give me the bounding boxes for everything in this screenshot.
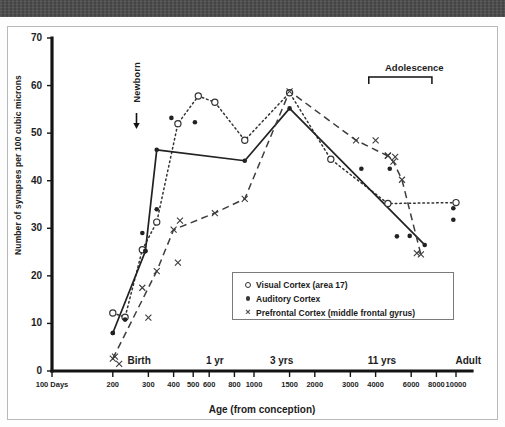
y-tick-label: 10 [16,317,42,328]
y-tick-label: 0 [16,365,42,376]
data-point-open-circle [154,219,160,225]
data-point-open-circle [385,200,391,206]
y-tick-label: 60 [16,80,42,91]
scatter-point-cross [175,260,181,266]
legend-item-auditory: Auditory Cortex [240,292,446,305]
data-point-open-circle [195,93,201,99]
scatter-point-filled-circle [154,207,159,212]
y-tick-label: 40 [16,175,42,186]
data-point-cross [353,137,359,143]
x-stage-label: Birth [104,355,174,366]
data-point-open-circle [175,121,181,127]
scatter-point-filled-circle [169,116,174,121]
adolescence-bracket [369,77,432,84]
open-circle-icon [240,282,256,288]
y-tick-label: 20 [16,270,42,281]
chart-legend: Visual Cortex (area 17) Auditory Cortex … [232,272,454,320]
data-point-open-circle [212,99,218,105]
legend-label-prefrontal: Prefrontal Cortex (middle frontal gyrus) [256,308,415,318]
scatter-point-filled-circle [395,234,400,239]
y-tick-label: 30 [16,222,42,233]
scatter-point-filled-circle [140,231,145,236]
cross-icon: × [240,308,256,317]
data-point-open-circle [453,199,459,205]
x-stage-label: Adult [433,355,503,366]
y-tick-label: 70 [16,32,42,43]
x-stage-label: 3 yrs [247,355,317,366]
x-stage-label: 11 yrs [347,355,417,366]
newborn-annotation: Newborn [132,62,142,103]
legend-item-prefrontal: × Prefrontal Cortex (middle frontal gyru… [240,306,446,319]
data-point-filled-circle [287,106,292,111]
data-point-filled-circle [422,243,427,248]
data-point-cross [242,196,248,202]
scatter-point-cross [145,315,151,321]
newborn-arrow-head [133,123,139,129]
scatter-point-cross [392,154,398,160]
scatter-point-filled-circle [407,234,412,239]
data-point-cross [171,227,177,233]
legend-label-visual: Visual Cortex (area 17) [256,280,348,290]
data-point-filled-circle [143,249,148,254]
data-point-filled-circle [242,158,247,163]
scatter-point-filled-circle [451,217,456,222]
data-point-cross [212,210,218,216]
x-stage-label: 1 yr [180,355,250,366]
data-point-cross [385,153,391,159]
scatter-point-filled-circle [123,317,128,322]
scatter-point-cross [177,218,183,224]
scatter-point-filled-circle [359,167,364,172]
adolescence-annotation: Adolescence [385,62,444,73]
scatter-point-cross [139,285,145,291]
scatter-point-cross [373,137,379,143]
filled-circle-icon [240,296,256,301]
legend-label-auditory: Auditory Cortex [256,294,320,304]
y-axis-label: Number of synapses per 100 cubic microns [13,65,23,265]
data-point-cross [154,268,160,274]
data-point-filled-circle [154,147,159,152]
figure-root: Number of synapses per 100 cubic microns… [0,0,505,427]
data-point-open-circle [242,137,248,143]
legend-item-visual: Visual Cortex (area 17) [240,278,446,291]
x-tick-label: 10000 [434,380,478,389]
data-point-cross [390,159,396,165]
scatter-point-filled-circle [387,167,392,172]
data-point-open-circle [110,310,116,316]
scatter-point-filled-circle [193,120,198,125]
data-point-open-circle [328,156,334,162]
data-point-filled-circle [111,331,116,336]
x-axis-label: Age (from conception) [52,404,472,415]
x-tick-label: 100 Days [30,380,74,389]
y-tick-label: 50 [16,127,42,138]
scatter-point-filled-circle [451,206,456,211]
